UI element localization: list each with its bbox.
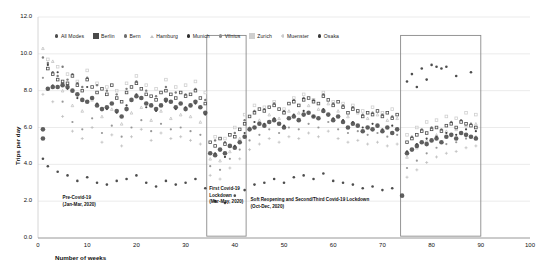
data-point: [439, 140, 444, 145]
data-point: [445, 132, 447, 134]
data-point: [278, 132, 280, 134]
data-point: [342, 106, 345, 109]
data-point: [204, 99, 206, 101]
data-point: [366, 111, 369, 114]
data-point: [248, 139, 250, 141]
data-point: [237, 140, 242, 145]
data-point: [116, 93, 118, 95]
data-point: [145, 93, 148, 96]
data-point: [71, 75, 74, 78]
data-point: [322, 95, 325, 98]
data-point: [145, 89, 147, 91]
data-point: [400, 193, 405, 198]
legend-item-bern[interactable]: Bern: [124, 33, 141, 39]
legend-item-all-modes[interactable]: All Modes: [55, 33, 84, 39]
legend-item-zurich[interactable]: Zurich: [249, 33, 272, 39]
legend-item-munich[interactable]: Munich: [187, 33, 210, 39]
data-point: [140, 88, 143, 91]
annotation-line: Pre-Covid-19: [63, 195, 96, 202]
data-point: [298, 128, 300, 130]
data-point: [194, 80, 197, 83]
data-point: [263, 110, 266, 113]
legend-item-berlin[interactable]: Berlin: [93, 33, 115, 39]
data-point: [209, 141, 212, 144]
data-point: [316, 116, 321, 121]
data-point: [459, 131, 464, 136]
data-point: [475, 113, 478, 116]
data-point: [342, 181, 345, 184]
legend-item-muenster[interactable]: Muenster: [281, 33, 309, 39]
legend-item-osaka[interactable]: Osaka: [318, 33, 339, 39]
data-point: [81, 110, 84, 113]
data-point: [376, 113, 379, 116]
x-tick-label: 70: [368, 242, 396, 248]
data-point: [464, 133, 469, 138]
data-point: [317, 126, 319, 128]
data-point: [288, 110, 291, 113]
data-point: [86, 86, 88, 88]
data-point: [61, 80, 64, 83]
data-point: [66, 78, 68, 80]
series-bern: [42, 56, 472, 143]
data-point: [124, 107, 129, 112]
data-point: [96, 84, 98, 86]
data-point: [258, 134, 260, 136]
data-point: [101, 132, 103, 134]
data-point: [56, 65, 59, 68]
data-point: [66, 174, 69, 177]
data-point: [475, 123, 478, 126]
data-point: [135, 82, 138, 85]
data-point: [420, 130, 423, 133]
data-point: [213, 153, 218, 158]
data-point: [411, 137, 414, 140]
data-point: [106, 183, 109, 186]
annotation-line: (Jan-Mar, 2020): [63, 202, 96, 209]
data-point: [165, 78, 168, 81]
data-point: [199, 134, 201, 136]
data-point: [47, 67, 50, 70]
data-point: [386, 111, 389, 114]
data-point: [470, 124, 473, 127]
data-point: [470, 71, 473, 74]
data-point: [352, 108, 355, 111]
y-tick-label: 10.0: [0, 50, 32, 56]
data-point: [416, 134, 419, 137]
data-point: [416, 160, 418, 162]
data-point: [444, 134, 449, 139]
data-point: [376, 110, 379, 113]
data-point: [91, 86, 94, 89]
data-point: [430, 128, 433, 131]
data-point: [165, 180, 168, 183]
data-point: [386, 136, 388, 138]
data-point: [361, 115, 364, 118]
data-point: [179, 91, 182, 94]
data-point: [425, 78, 428, 81]
data-point: [55, 85, 60, 90]
data-point: [347, 132, 349, 134]
data-point: [391, 108, 394, 111]
data-point: [224, 143, 227, 146]
data-point: [455, 75, 458, 78]
data-point: [337, 100, 340, 103]
data-point: [76, 180, 79, 183]
y-tick-label: 8.0: [0, 87, 32, 93]
data-point: [390, 131, 395, 136]
data-point: [125, 178, 128, 181]
data-point: [361, 187, 364, 190]
x-tick-label: 90: [467, 242, 495, 248]
data-point: [243, 119, 245, 121]
annotation-line: (Oct-Dec, 2020): [251, 204, 370, 211]
data-point: [208, 151, 213, 156]
data-point: [204, 102, 207, 105]
data-point: [234, 132, 236, 134]
data-point: [455, 117, 458, 120]
legend-item-vilnius[interactable]: Vilnius: [219, 33, 241, 39]
data-point: [406, 134, 409, 137]
data-point: [41, 136, 46, 141]
data-point: [175, 91, 177, 93]
data-point: [332, 180, 335, 183]
legend-marker-triangle-icon: [150, 35, 154, 38]
data-point: [130, 86, 133, 89]
data-point: [445, 143, 447, 145]
legend-item-hamburg[interactable]: Hamburg: [150, 33, 178, 39]
